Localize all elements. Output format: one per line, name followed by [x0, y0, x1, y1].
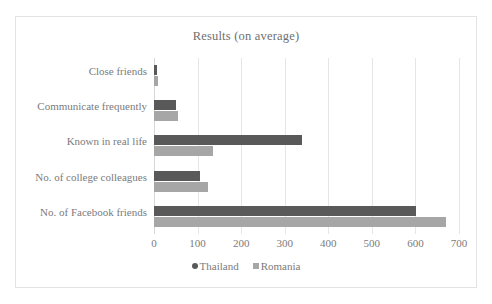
bar-thailand — [154, 171, 200, 181]
x-tick-label: 200 — [233, 237, 250, 249]
bar-romania — [154, 146, 213, 156]
bar-thailand — [154, 135, 302, 145]
category-row: Communicate frequently — [154, 93, 459, 128]
x-tick-label: 500 — [364, 237, 381, 249]
category-label: Close friends — [89, 64, 147, 78]
category-label: Communicate frequently — [37, 99, 147, 113]
legend-label: Thailand — [200, 260, 239, 272]
x-tick-label: 300 — [276, 237, 293, 249]
circle-marker-icon — [192, 263, 198, 269]
x-tick-label: 100 — [189, 237, 206, 249]
bar-thailand — [154, 65, 157, 75]
bar-romania — [154, 217, 446, 227]
gridline — [459, 58, 460, 234]
bar-romania — [154, 76, 158, 86]
x-axis-tick-labels: 0100200300400500600700 — [154, 237, 459, 253]
bar-romania — [154, 182, 208, 192]
plot-area: Close friendsCommunicate frequentlyKnown… — [154, 58, 459, 234]
category-label: No. of Facebook friends — [40, 205, 147, 219]
category-row: No. of college colleagues — [154, 164, 459, 199]
bar-romania — [154, 111, 178, 121]
square-marker-icon — [253, 263, 259, 269]
chart-legend: ThailandRomania — [16, 260, 476, 272]
legend-item-romania[interactable]: Romania — [253, 260, 301, 272]
chart-container: Results (on average) Close friendsCommun… — [15, 16, 477, 288]
bar-thailand — [154, 100, 176, 110]
x-tick-label: 400 — [320, 237, 337, 249]
x-tick-label: 700 — [451, 237, 468, 249]
legend-item-thailand[interactable]: Thailand — [192, 260, 239, 272]
legend-label: Romania — [261, 260, 301, 272]
category-row: No. of Facebook friends — [154, 199, 459, 234]
category-row: Known in real life — [154, 128, 459, 163]
category-row: Close friends — [154, 58, 459, 93]
category-label: No. of college colleagues — [35, 170, 147, 184]
chart-title: Results (on average) — [16, 29, 476, 44]
x-tick-label: 0 — [151, 237, 157, 249]
x-tick-label: 600 — [407, 237, 424, 249]
bar-thailand — [154, 206, 416, 216]
category-label: Known in real life — [67, 134, 147, 148]
